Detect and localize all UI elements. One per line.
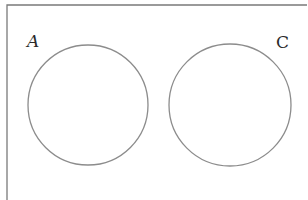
- venn-canvas: A C: [0, 0, 308, 200]
- venn-diagram: A C: [0, 0, 308, 200]
- set-c-label: C: [276, 32, 289, 52]
- set-a-label: A: [25, 31, 39, 51]
- set-a-circle: [28, 45, 148, 165]
- universe-box: [7, 5, 307, 200]
- set-c-circle: [169, 44, 291, 166]
